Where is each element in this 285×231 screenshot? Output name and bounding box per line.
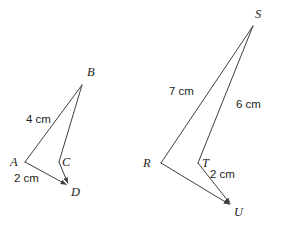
- vertex-label-S: S: [255, 8, 261, 21]
- vertex-label-T: T: [202, 157, 209, 170]
- side-RS-length: 7 cm: [169, 86, 194, 98]
- edge-BC: [59, 85, 82, 162]
- vertex-label-B: B: [87, 66, 95, 79]
- side-SU-length: 6 cm: [236, 99, 261, 111]
- vertex-label-A: A: [10, 156, 18, 169]
- side-AD-length: 2 cm: [14, 173, 39, 185]
- vertex-label-C: C: [62, 156, 70, 169]
- vertex-label-R: R: [143, 157, 151, 170]
- side-TU-length: 2 cm: [210, 169, 235, 181]
- diagram-canvas: ABCD4 cm2 cmRSTU7 cm6 cm2 cm: [0, 0, 285, 231]
- side-AB-length: 4 cm: [26, 114, 51, 126]
- edge-ST: [198, 26, 253, 163]
- vertex-label-D: D: [71, 186, 80, 199]
- vertex-label-U: U: [234, 206, 243, 219]
